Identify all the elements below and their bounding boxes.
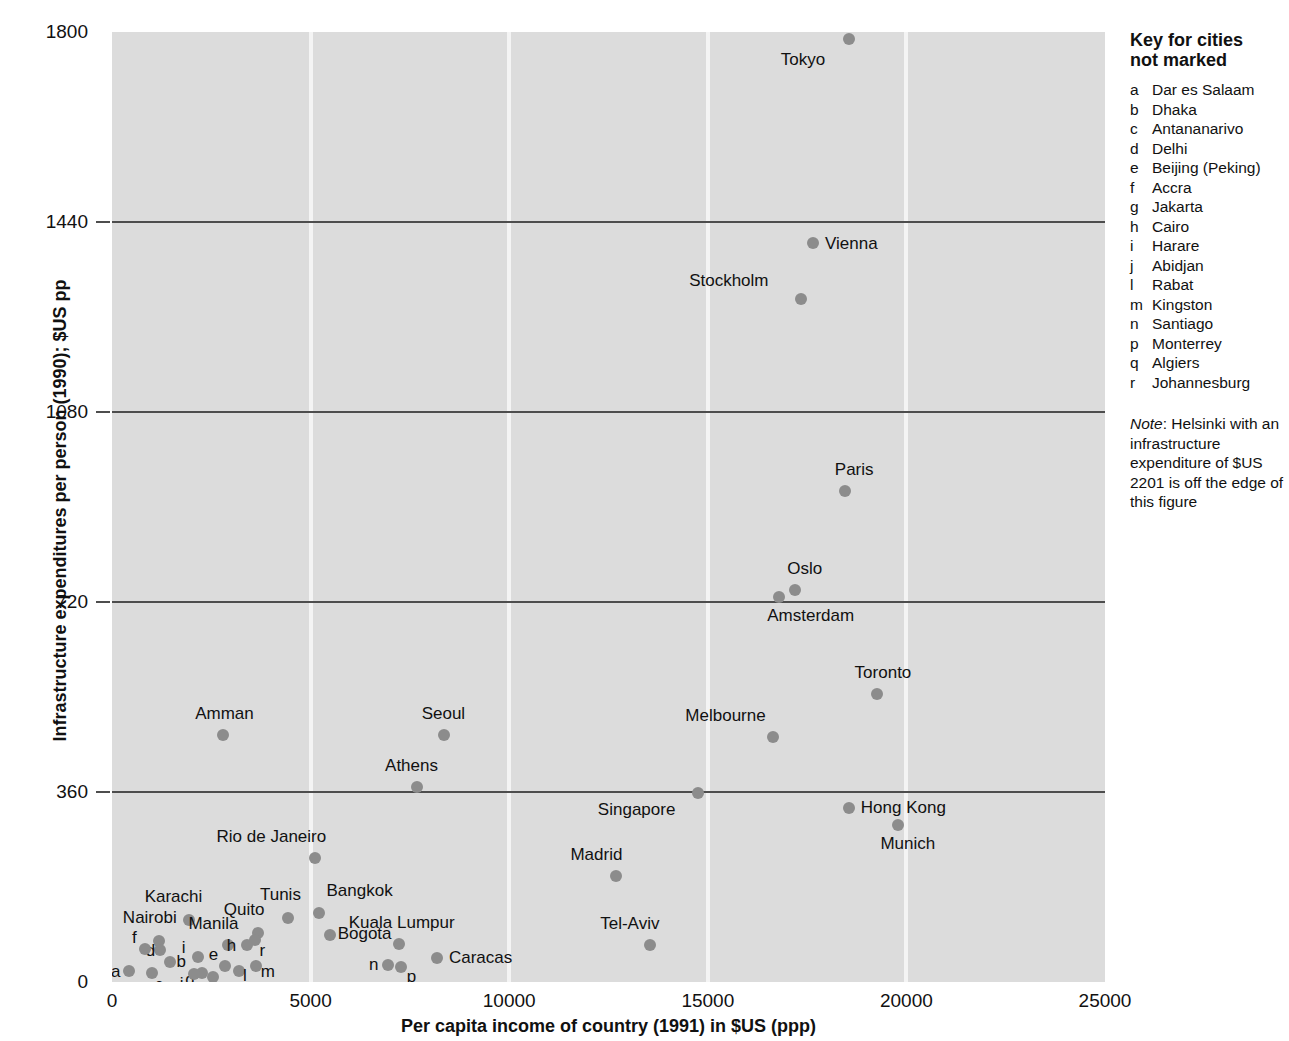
key-entry: cAntananarivo <box>1130 119 1289 139</box>
key-entry: mKingston <box>1130 295 1289 315</box>
key-entry-city: Johannesburg <box>1152 373 1289 393</box>
key-entry-city: Monterrey <box>1152 334 1289 354</box>
key-title-line1: Key for cities <box>1130 30 1289 50</box>
y-tick-mark <box>96 791 110 793</box>
data-point-city[interactable] <box>807 237 819 249</box>
data-point-city[interactable] <box>789 584 801 596</box>
data-point-keyed[interactable] <box>188 968 200 980</box>
data-point-city[interactable] <box>644 939 656 951</box>
y-tick-label: 360 <box>0 781 88 803</box>
key-note-label: Note <box>1130 415 1163 432</box>
data-point-city[interactable] <box>839 485 851 497</box>
data-point-city[interactable] <box>871 688 883 700</box>
point-label: f <box>132 929 137 946</box>
key-entry: lRabat <box>1130 275 1289 295</box>
point-label: c <box>155 976 164 982</box>
x-tick-label: 15000 <box>681 990 734 1012</box>
key-entry-city: Delhi <box>1152 139 1289 159</box>
key-entry-letter: f <box>1130 178 1152 198</box>
data-point-keyed[interactable] <box>382 959 394 971</box>
data-point-city[interactable] <box>309 852 321 864</box>
point-label: Melbourne <box>685 707 765 724</box>
data-point-city[interactable] <box>843 802 855 814</box>
point-label: m <box>261 963 275 980</box>
y-tick-label: 0 <box>0 971 88 993</box>
x-tick-label: 10000 <box>483 990 536 1012</box>
data-point-city[interactable] <box>431 952 443 964</box>
horizontal-gridline <box>112 221 1105 223</box>
point-label: Munich <box>880 835 935 852</box>
data-point-city[interactable] <box>773 591 785 603</box>
horizontal-gridline <box>112 791 1105 793</box>
data-point-city[interactable] <box>692 787 704 799</box>
data-point-city[interactable] <box>843 33 855 45</box>
point-label: Nairobi <box>123 909 177 926</box>
point-label: Amsterdam <box>767 607 854 624</box>
data-point-keyed[interactable] <box>164 956 176 968</box>
key-entry-letter: r <box>1130 373 1152 393</box>
data-point-city[interactable] <box>313 907 325 919</box>
key-entry-letter: a <box>1130 80 1152 100</box>
data-point-city[interactable] <box>795 293 807 305</box>
x-tick-label: 5000 <box>289 990 331 1012</box>
key-entry: bDhaka <box>1130 100 1289 120</box>
key-entry-city: Antananarivo <box>1152 119 1289 139</box>
data-point-city[interactable] <box>767 731 779 743</box>
key-title: Key for cities not marked <box>1130 30 1289 70</box>
key-entry-city: Harare <box>1152 236 1289 256</box>
y-axis-title: Infrastructure expenditures per person (… <box>50 111 71 911</box>
y-tick-mark <box>96 411 110 413</box>
point-label: Caracas <box>449 949 512 966</box>
data-point-city[interactable] <box>411 781 423 793</box>
data-point-keyed[interactable] <box>219 960 231 972</box>
point-label: Toronto <box>855 664 912 681</box>
y-tick-mark <box>96 221 110 223</box>
x-axis-title: Per capita income of country (1991) in $… <box>112 1016 1105 1037</box>
key-entry: aDar es Salaam <box>1130 80 1289 100</box>
key-list: aDar es SalaambDhakacAntananarivodDelhie… <box>1130 80 1289 392</box>
key-entry: eBeijing (Peking) <box>1130 158 1289 178</box>
data-point-city[interactable] <box>438 729 450 741</box>
key-entry: fAccra <box>1130 178 1289 198</box>
plot-area: TokyoViennaStockholmParisOsloAmsterdamTo… <box>112 32 1105 982</box>
x-tick-label: 0 <box>107 990 118 1012</box>
data-point-keyed[interactable] <box>395 961 407 973</box>
data-point-keyed[interactable] <box>123 965 135 977</box>
key-entry-city: Santiago <box>1152 314 1289 334</box>
data-point-city[interactable] <box>892 819 904 831</box>
data-point-city[interactable] <box>324 929 336 941</box>
key-entry: gJakarta <box>1130 197 1289 217</box>
data-point-city[interactable] <box>393 938 405 950</box>
point-label: a <box>112 963 121 980</box>
point-label: Bangkok <box>327 882 393 899</box>
data-point-city[interactable] <box>282 912 294 924</box>
key-entry: iHarare <box>1130 236 1289 256</box>
key-entry-letter: l <box>1130 275 1152 295</box>
x-tick-label: 20000 <box>880 990 933 1012</box>
key-entry: pMonterrey <box>1130 334 1289 354</box>
key-entry: dDelhi <box>1130 139 1289 159</box>
y-tick-label: 1800 <box>0 21 88 43</box>
point-label: Vienna <box>825 235 878 252</box>
data-point-keyed[interactable] <box>192 951 204 963</box>
point-label: Stockholm <box>689 272 768 289</box>
point-label: Madrid <box>570 846 622 863</box>
key-entry-city: Dhaka <box>1152 100 1289 120</box>
vertical-gridline <box>507 32 511 982</box>
point-label: h <box>227 937 236 954</box>
data-point-keyed[interactable] <box>154 944 166 956</box>
horizontal-gridline <box>112 411 1105 413</box>
point-label: Hong Kong <box>861 799 946 816</box>
point-label: p <box>407 968 416 982</box>
key-entry-letter: d <box>1130 139 1152 159</box>
point-label: Paris <box>835 461 874 478</box>
key-title-line2: not marked <box>1130 50 1289 70</box>
key-entry: qAlgiers <box>1130 353 1289 373</box>
data-point-city[interactable] <box>610 870 622 882</box>
y-tick-mark <box>96 601 110 603</box>
key-entry-city: Abidjan <box>1152 256 1289 276</box>
point-label: Tunis <box>260 886 301 903</box>
point-label: Oslo <box>787 560 822 577</box>
key-entry-city: Rabat <box>1152 275 1289 295</box>
data-point-city[interactable] <box>217 729 229 741</box>
